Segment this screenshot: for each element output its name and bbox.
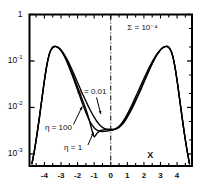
leader-arrow	[97, 97, 102, 114]
xtick-label-4: 4	[168, 172, 186, 180]
eta-100-annotation: η = 100	[45, 124, 72, 132]
x-axis-title: X	[147, 151, 153, 160]
xtick-label-neg2: -2	[69, 172, 87, 180]
leader-arrow	[88, 132, 94, 145]
eta-001-annotation: η = 0.01	[77, 88, 106, 96]
xtick-label-neg4: -4	[35, 172, 53, 180]
ytick-label-1e-1: 10-1	[0, 56, 23, 65]
xtick-label-neg3: -3	[52, 172, 70, 180]
ytick-label-1: 1	[0, 10, 23, 19]
xtick-label-0: 0	[102, 172, 120, 180]
sigma-annotation: Σ = 10⁻⁴	[127, 24, 157, 32]
leader-arrow	[73, 106, 82, 124]
ytick-label-1e-3: 10-3	[0, 149, 23, 158]
plot-canvas	[0, 0, 207, 194]
xtick-label-3: 3	[151, 172, 169, 180]
xtick-label-neg1: -1	[85, 172, 103, 180]
ytick-label-1e-2: 10-2	[0, 102, 23, 111]
figure-panel: 1 10-1 10-2 10-3 -4-3-2-101234 Σ = 10⁻⁴η…	[0, 0, 207, 194]
eta-1-annotation: η = 1	[64, 144, 82, 152]
xtick-label-1: 1	[118, 172, 136, 180]
xtick-label-2: 2	[135, 172, 153, 180]
